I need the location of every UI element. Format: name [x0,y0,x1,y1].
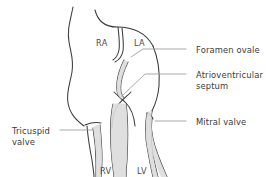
lv-free-wall-outline [152,46,159,111]
callout-label-tricuspid-valve: Tricuspid valve [12,126,50,147]
callout-label-atrioventricular-septum: Atrioventricular septum [196,70,263,91]
chamber-label-lv: LV [137,166,147,176]
tricuspid-leaflet-anterior [87,126,94,177]
septum-secundum-outline [113,27,119,60]
valve-shading-group [93,60,167,177]
leader-line-atrioventricular-septum [122,74,186,96]
callout-label-foramen-ovale: Foramen ovale [196,45,260,56]
callout-label-mitral-valve: Mitral valve [196,117,246,128]
figure-canvas: RA LA RV LV Foramen ovale Atrioventricul… [0,0,266,177]
rv-free-wall-outline [67,7,84,126]
chamber-label-ra: RA [96,38,108,48]
ventricular-septum-shading [111,103,128,177]
chamber-label-la: LA [134,38,145,48]
leader-line-foramen-ovale [131,49,186,57]
chamber-label-rv: RV [100,166,111,176]
